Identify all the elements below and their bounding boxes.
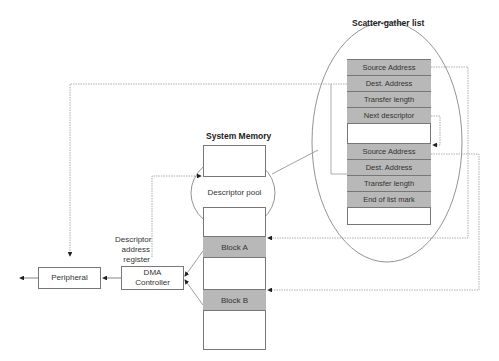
list-item: Transfer length	[347, 176, 431, 192]
system-memory-title: System Memory	[206, 131, 271, 141]
descriptor-pool: Descriptor pool	[203, 176, 266, 208]
descriptor-address-register-label: Descriptor address register	[115, 235, 150, 265]
list-item: Next descriptor	[347, 108, 431, 124]
list-item: Dest. Address	[347, 76, 431, 92]
scatter-gather-list: Source Address Dest. Address Transfer le…	[347, 59, 431, 225]
system-memory: Descriptor pool Block A Block B	[203, 145, 266, 350]
list-item: Transfer length	[347, 92, 431, 108]
dma-controller: DMA Controller	[121, 266, 184, 290]
list-item: Dest. Address	[347, 160, 431, 176]
list-gap	[347, 124, 431, 144]
list-item: Source Address	[347, 60, 431, 76]
block-b: Block B	[203, 289, 266, 311]
list-item: End of list mark	[347, 192, 431, 208]
block-a: Block A	[203, 236, 266, 258]
list-item: Source Address	[347, 144, 431, 160]
scatter-gather-title: Scatter-gather list	[352, 18, 424, 28]
peripheral: Peripheral	[38, 267, 101, 289]
